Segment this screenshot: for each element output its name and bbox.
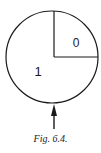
sector-label-1: 1 [34,64,41,79]
circle-diagram: 0 1 [0,0,101,153]
figure-caption: Fig. 6.4. [0,133,101,144]
sector-label-0: 0 [73,36,80,50]
arrow-up-icon [51,104,57,129]
